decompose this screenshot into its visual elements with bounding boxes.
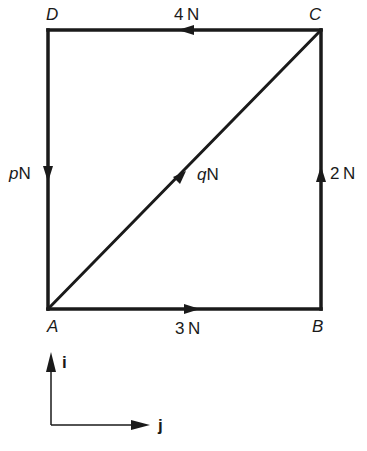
force-da-label: pN bbox=[9, 165, 31, 182]
arrow-da-icon bbox=[43, 166, 53, 182]
vertex-d-label: D bbox=[46, 6, 58, 23]
force-ab-label: 3 N bbox=[175, 320, 200, 337]
axis-i-label: i bbox=[62, 354, 67, 371]
force-ac-unit: N bbox=[206, 165, 218, 184]
force-da-unit: N bbox=[18, 164, 30, 183]
force-bc-label: 2 N bbox=[330, 165, 355, 182]
arrow-bc-icon bbox=[316, 166, 326, 182]
force-bc-unit: N bbox=[343, 164, 355, 183]
force-ab-magnitude: 3 bbox=[175, 319, 184, 338]
force-ab-unit: N bbox=[188, 319, 200, 338]
force-cd-magnitude: 4 bbox=[174, 5, 183, 24]
axis-j-arrow-icon bbox=[131, 420, 150, 430]
axis-i-arrow-icon bbox=[46, 352, 56, 372]
force-cd-unit: N bbox=[187, 5, 199, 24]
vertex-c-label: C bbox=[309, 6, 321, 23]
force-cd-label: 4 N bbox=[174, 6, 199, 23]
vertex-a-label: A bbox=[47, 318, 58, 335]
axis-j-label: j bbox=[158, 417, 163, 434]
vertex-b-label: B bbox=[312, 318, 323, 335]
force-bc-magnitude: 2 bbox=[330, 164, 339, 183]
arrow-ab-icon bbox=[184, 304, 200, 314]
diagonal-ac bbox=[48, 30, 321, 309]
force-diagram bbox=[0, 0, 367, 451]
arrow-cd-icon bbox=[178, 25, 194, 35]
force-ac-label: qN bbox=[197, 166, 219, 183]
